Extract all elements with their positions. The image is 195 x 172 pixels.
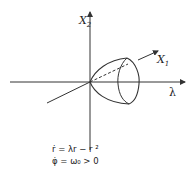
- x1-axis-back: [47, 82, 90, 103]
- paraboloid-lower: [90, 82, 129, 104]
- lambda-axis-label: λ: [169, 86, 176, 99]
- x2-axis-label: X2: [79, 14, 91, 29]
- equation-angular: φ̇ = ω₀ > 0: [52, 156, 99, 166]
- x1-axis-front: [138, 51, 158, 60]
- x1-axis-label: X1: [157, 53, 169, 68]
- limit-cycle-front: [127, 58, 139, 104]
- limit-cycle-back: [118, 58, 129, 104]
- equation-radial: ṙ = λr − r ²: [52, 144, 99, 154]
- paraboloid-upper: [90, 58, 127, 82]
